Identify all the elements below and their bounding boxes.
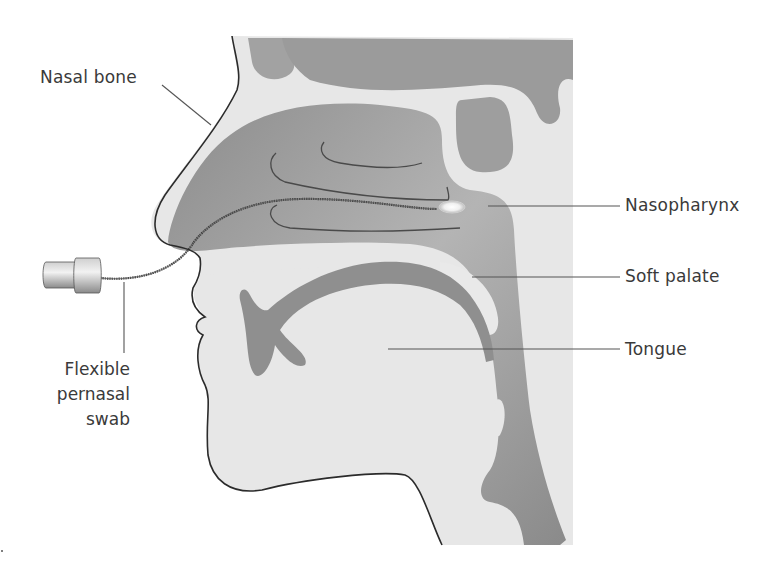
label-flexible-pernasal-swab: Flexible pernasal swab: [20, 357, 130, 432]
label-nasopharynx: Nasopharynx: [625, 194, 739, 217]
swab-label-line-2: pernasal: [20, 382, 130, 407]
sphenoid-sinus: [456, 97, 513, 172]
swab-label-line-1: Flexible: [20, 357, 130, 382]
label-tongue: Tongue: [625, 338, 687, 361]
label-soft-palate: Soft palate: [625, 265, 720, 288]
nasopharyngeal-swab-diagram: Nasal bone Nasopharynx Soft palate Tongu…: [0, 0, 783, 569]
swab-tip: [439, 201, 465, 213]
nasal-bone-leader: [162, 85, 211, 125]
stray-dot: [1, 550, 3, 552]
label-nasal-bone: Nasal bone: [40, 66, 137, 89]
swab-connector: [43, 258, 101, 293]
swab-label-line-3: swab: [20, 407, 130, 432]
